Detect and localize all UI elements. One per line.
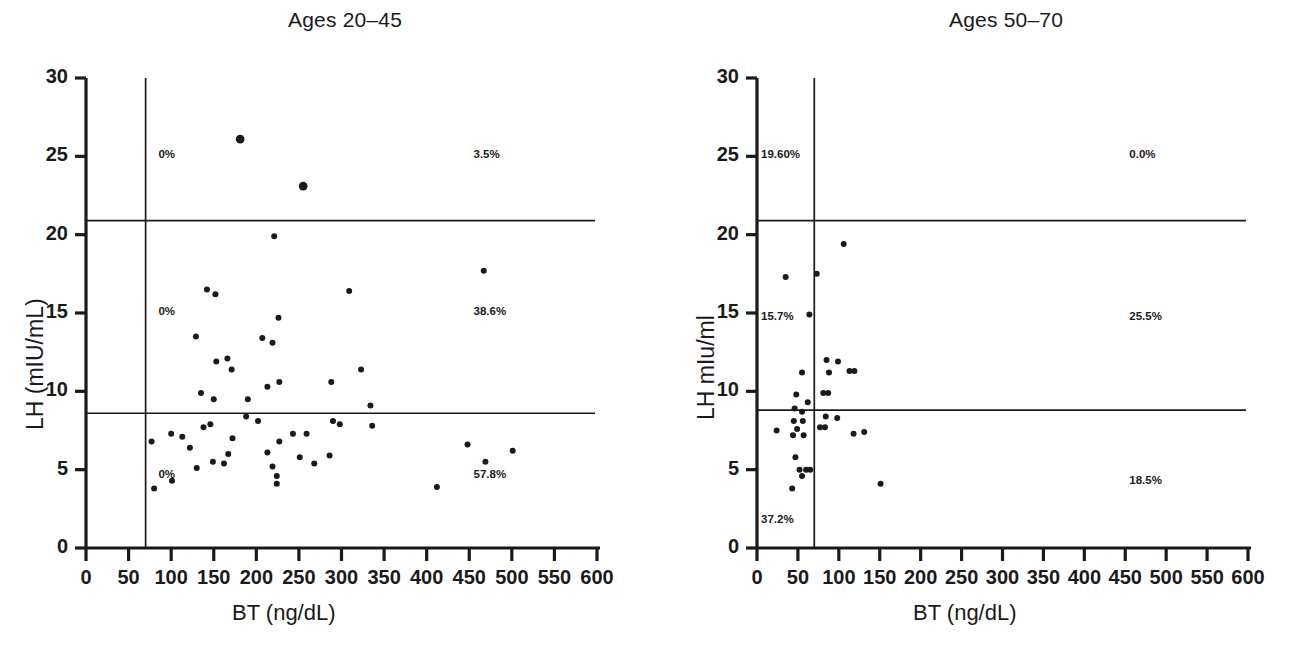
data-point (814, 271, 820, 277)
data-point (793, 391, 799, 397)
data-point (255, 418, 261, 424)
data-point (213, 359, 219, 365)
x-axis-label-right: BT (ng/dL) (913, 600, 1017, 626)
data-point (789, 485, 795, 491)
quadrant-percentage-label: 18.5% (1129, 474, 1162, 486)
data-point (792, 406, 798, 412)
data-point (510, 448, 516, 454)
data-point (297, 454, 303, 460)
data-point (211, 396, 217, 402)
plot-area-left (0, 0, 650, 647)
quadrant-percentage-label: 0% (158, 468, 175, 480)
data-point (224, 355, 230, 361)
data-point (276, 438, 282, 444)
data-point (861, 429, 867, 435)
x-tick-label: 600 (1223, 566, 1273, 589)
data-point (221, 460, 227, 466)
data-point (243, 413, 249, 419)
data-point (826, 370, 832, 376)
data-point (346, 288, 352, 294)
data-point (369, 423, 375, 429)
data-point (327, 453, 333, 459)
data-point (274, 473, 280, 479)
data-point (229, 366, 235, 372)
data-point (194, 465, 200, 471)
quadrant-percentage-label: 3.5% (474, 148, 500, 160)
y-tick-label: 15 (20, 300, 68, 323)
plot-area-right (651, 0, 1301, 647)
quadrant-percentage-label: 38.6% (474, 305, 507, 317)
quadrant-percentage-label: 25.5% (1129, 310, 1162, 322)
data-point (465, 442, 471, 448)
data-point (149, 438, 155, 444)
y-tick-label: 15 (691, 300, 739, 323)
data-point (799, 370, 805, 376)
data-point (328, 379, 334, 385)
quadrant-percentage-label: 0.0% (1129, 148, 1155, 160)
y-tick-label: 5 (20, 457, 68, 480)
data-point (841, 241, 847, 247)
data-point (274, 481, 280, 487)
data-point (835, 359, 841, 365)
data-point (800, 418, 806, 424)
data-point (236, 135, 245, 144)
data-point (783, 274, 789, 280)
data-point (481, 268, 487, 274)
y-tick-label: 0 (20, 535, 68, 558)
data-point (878, 481, 884, 487)
y-tick-label: 20 (20, 222, 68, 245)
data-point (791, 418, 797, 424)
data-point (270, 464, 276, 470)
data-point (225, 451, 231, 457)
data-point (179, 434, 185, 440)
x-axis-label-left: BT (ng/dL) (232, 600, 336, 626)
data-point (201, 424, 207, 430)
y-tick-label: 5 (691, 457, 739, 480)
data-point (825, 390, 831, 396)
data-point (824, 357, 830, 363)
data-point (210, 459, 216, 465)
data-point (434, 484, 440, 490)
quadrant-percentage-label: 19.60% (761, 148, 800, 160)
data-point (264, 449, 270, 455)
data-point (212, 291, 218, 297)
data-point (270, 340, 276, 346)
y-tick-label: 25 (691, 143, 739, 166)
y-tick-label: 25 (20, 143, 68, 166)
two-panel-scatter-figure: Ages 20–45 LH (mIU/mL) BT (ng/dL) 051015… (0, 0, 1301, 647)
quadrant-percentage-label: 37.2% (761, 513, 794, 525)
data-point (792, 454, 798, 460)
data-point (290, 431, 296, 437)
data-point (311, 460, 317, 466)
data-point (807, 467, 813, 473)
data-point (851, 368, 857, 374)
data-point (187, 445, 193, 451)
data-point (799, 473, 805, 479)
data-point (207, 421, 213, 427)
y-axis-label-right: LH mIu/ml (693, 315, 720, 420)
quadrant-percentage-label: 57.8% (474, 468, 507, 480)
data-point (358, 366, 364, 372)
data-point (482, 459, 488, 465)
data-point (275, 315, 281, 321)
data-point (168, 431, 174, 437)
data-point (822, 424, 828, 430)
x-tick-label: 600 (572, 566, 622, 589)
data-point (229, 435, 235, 441)
data-point (198, 390, 204, 396)
data-point (304, 431, 310, 437)
data-point (794, 426, 800, 432)
data-point (806, 312, 812, 318)
data-point (805, 399, 811, 405)
data-point (193, 334, 199, 340)
data-point (801, 432, 807, 438)
y-tick-label: 20 (691, 222, 739, 245)
data-point (797, 467, 803, 473)
data-point (790, 432, 796, 438)
data-point (151, 485, 157, 491)
y-tick-label: 0 (691, 535, 739, 558)
data-point (337, 421, 343, 427)
panel-ages-50-70: Ages 50–70 LH mIu/ml BT (ng/dL) 05101520… (651, 0, 1301, 647)
data-point (245, 396, 251, 402)
data-point (823, 413, 829, 419)
